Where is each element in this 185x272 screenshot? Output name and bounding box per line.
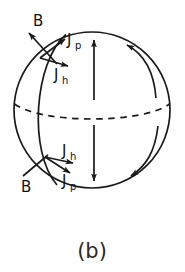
bottom-jp-label-subscript: p: [70, 181, 76, 192]
bottom-jh-label: J: [61, 142, 66, 160]
top-jp-label-subscript: p: [75, 40, 81, 51]
top-jh-vector-arrow: [40, 58, 68, 66]
bottom-b-vector-line: [23, 155, 48, 176]
figure-container: B J p J h J h J p B (b): [0, 0, 185, 272]
bottom-jh-label-subscript: h: [70, 151, 76, 162]
top-b-label: B: [33, 12, 43, 30]
top-jh-label: J: [53, 66, 58, 84]
upper-right-curved-arrow: [127, 45, 156, 98]
bottom-b-label: B: [21, 178, 31, 196]
sphere-current-diagram: B J p J h J h J p B (b): [0, 0, 185, 272]
bottom-jp-label: J: [61, 172, 66, 190]
top-jp-label: J: [66, 31, 71, 49]
top-jh-label-subscript: h: [62, 75, 68, 86]
figure-caption: (b): [77, 239, 107, 263]
